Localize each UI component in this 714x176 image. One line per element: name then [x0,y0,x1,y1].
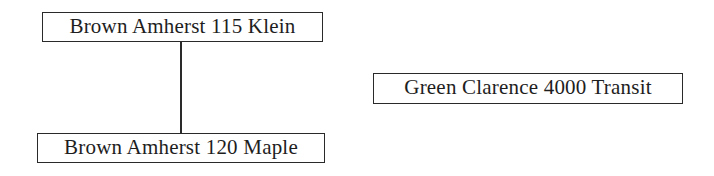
node-label: Green Clarence 4000 Transit [404,75,651,99]
node-brown-amherst-120-maple: Brown Amherst 120 Maple [37,133,325,163]
node-brown-amherst-115-klein: Brown Amherst 115 Klein [42,12,323,42]
diagram-canvas: Brown Amherst 115 Klein Brown Amherst 12… [0,0,714,176]
node-green-clarence-4000-transit: Green Clarence 4000 Transit [373,73,683,104]
node-label: Brown Amherst 120 Maple [64,135,298,159]
node-label: Brown Amherst 115 Klein [69,14,295,38]
connector-line [180,42,182,133]
